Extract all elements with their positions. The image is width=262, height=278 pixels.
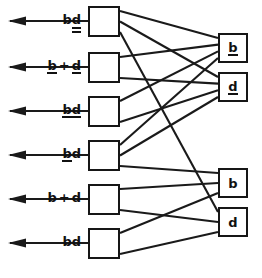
edge-L4-to-R1 <box>120 58 218 145</box>
token-b-plain: b <box>228 176 237 191</box>
edge-L5-to-R4 <box>120 210 218 222</box>
left-node-6[interactable] <box>88 228 120 259</box>
left-node-3[interactable] <box>88 96 120 127</box>
token-b-plain: b <box>47 190 56 205</box>
right-node-d[interactable]: d <box>218 207 248 237</box>
input-label-1: bd <box>0 13 88 30</box>
edge-L2-to-R1 <box>120 45 218 57</box>
token-d-underline: d <box>72 103 81 117</box>
edge-L6-to-R4 <box>120 232 218 254</box>
right-node-label-1: b <box>228 41 237 55</box>
token-b-underline: b <box>47 59 56 73</box>
right-node-d-bar[interactable]: d <box>218 72 248 102</box>
switching-network-diagram: bd b+d bd bd b+d bd b d b d <box>0 0 262 278</box>
edge-L1-to-R1 <box>120 11 218 38</box>
token-d-plain: d <box>228 215 237 230</box>
token-d-plain: d <box>72 190 81 205</box>
left-node-1[interactable] <box>88 6 120 37</box>
token-b-plain: b <box>62 12 71 27</box>
input-label-6: bd <box>0 235 88 248</box>
input-label-5: b+d <box>0 191 88 204</box>
input-label-3: bd <box>0 103 88 117</box>
edge-L1-to-R2 <box>120 22 218 78</box>
left-node-2[interactable] <box>88 52 120 83</box>
token-d-plain: d <box>72 146 81 161</box>
input-label-2: b+d <box>0 59 88 73</box>
left-node-4[interactable] <box>88 140 120 171</box>
token-b-underline: b <box>228 41 237 55</box>
token-b-plain: b <box>62 234 71 249</box>
right-node-label-3: b <box>228 177 237 190</box>
right-node-b[interactable]: b <box>218 168 248 198</box>
token-d-double-underline: d <box>72 13 81 30</box>
token-d-underline: d <box>72 59 81 73</box>
edge-L2-to-R2 <box>120 78 218 84</box>
edge-L4-to-R3 <box>120 166 218 173</box>
right-node-b-bar[interactable]: b <box>218 33 248 63</box>
right-node-label-2: d <box>228 80 237 94</box>
token-+-operator: + <box>57 59 72 72</box>
token-b-underline: b <box>62 103 71 117</box>
token-+-operator: + <box>57 191 72 204</box>
edge-L6-to-R3 <box>120 193 218 233</box>
left-node-5[interactable] <box>88 184 120 215</box>
token-d-underline: d <box>228 80 237 94</box>
token-d-plain: d <box>72 234 81 249</box>
token-b-underline: b <box>62 147 71 161</box>
input-label-4: bd <box>0 147 88 161</box>
right-node-label-4: d <box>228 216 237 229</box>
